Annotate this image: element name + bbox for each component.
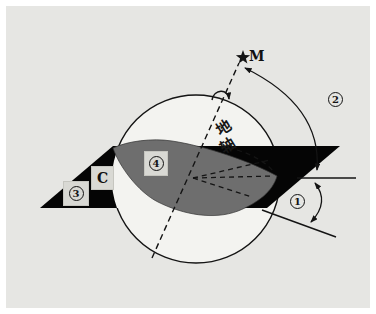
figure: M 地 轴 4 C 3 1 2	[0, 0, 376, 314]
polaris-star-icon	[236, 50, 250, 64]
angle-1-arc	[311, 183, 322, 222]
diagram-canvas	[0, 0, 376, 314]
equator-extension-line	[262, 210, 336, 237]
